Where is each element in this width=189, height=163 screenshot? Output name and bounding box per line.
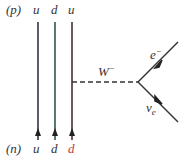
proton-label: (p) [6,2,21,17]
neutron-label: (n) [6,141,21,156]
top-quark-2: d [51,2,58,17]
arrow-icon [52,128,58,136]
arrow-icon [155,96,162,104]
arrow-icon [35,128,41,136]
arrow-icon [69,128,75,136]
top-quark-1: u [33,2,40,17]
feynman-diagram: (p) u d u (n) u d d W− e− νe [0,0,189,163]
top-quark-3: u [68,2,75,17]
neutrino-label: νe [146,100,156,117]
bottom-quark-2: d [51,141,58,156]
bottom-quark-1: u [33,141,40,156]
bottom-quark-3: d [68,141,75,156]
w-boson-label: W− [98,63,115,79]
